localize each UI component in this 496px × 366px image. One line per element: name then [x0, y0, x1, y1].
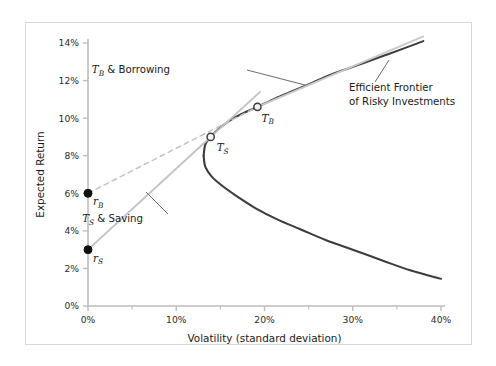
x-tick-label: 30% [343, 314, 364, 325]
data-point-r_S [84, 246, 92, 254]
x-axis-title: Volatility (standard deviation) [188, 332, 342, 344]
y-tick-label: 6% [64, 188, 79, 199]
x-tick-label: 40% [431, 314, 452, 325]
x-tick-label: 0% [81, 314, 96, 325]
x-tick-label: 20% [254, 314, 275, 325]
point-label-r_B: rB [93, 195, 104, 210]
y-tick-label: 12% [59, 75, 80, 86]
saving-annotation: TS & Saving [82, 213, 143, 227]
annotations-layer: TB & BorrowingEfficient Frontierof Risky… [82, 60, 455, 227]
chart-svg: 0%2%4%6%8%10%12%14%0%10%20%30%40% rBrSTS… [0, 0, 496, 366]
y-axis-title: Expected Return [34, 131, 46, 217]
axes-layer: 0%2%4%6%8%10%12%14%0%10%20%30%40% [59, 37, 452, 325]
series-line [88, 107, 257, 193]
figure-container: 0%2%4%6%8%10%12%14%0%10%20%30%40% rBrSTS… [0, 0, 496, 366]
y-tick-label: 8% [64, 150, 79, 161]
point-label-T_S: TS [217, 141, 229, 156]
y-tick-label: 10% [59, 113, 80, 124]
annotation-leader-line [146, 192, 168, 214]
data-point-T_B [254, 103, 261, 110]
point-label-T_B: TB [261, 112, 274, 127]
axis-titles-layer: Volatility (standard deviation)Expected … [34, 131, 341, 344]
series-line [204, 156, 441, 279]
annotation-leader-line [247, 70, 305, 85]
efficient-frontier-annotation: Efficient Frontierof Risky Investments [349, 82, 455, 107]
borrowing-annotation: TB & Borrowing [92, 64, 170, 78]
x-tick-label: 10% [166, 314, 187, 325]
annotation-leader-line [375, 60, 389, 82]
y-tick-label: 14% [59, 37, 80, 48]
markers-layer: rBrSTSTB [84, 103, 274, 266]
y-tick-label: 4% [64, 225, 79, 236]
y-tick-label: 0% [64, 300, 79, 311]
data-point-T_S [207, 133, 214, 140]
data-point-r_B [84, 189, 92, 197]
series-line [88, 92, 260, 250]
point-label-r_S: rS [93, 252, 103, 267]
y-tick-label: 2% [64, 263, 79, 274]
